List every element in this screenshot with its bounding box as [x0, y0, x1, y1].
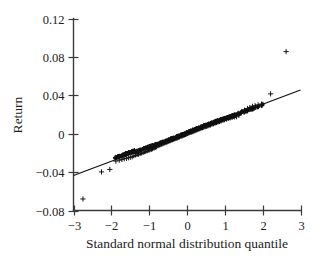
x-tick-label: −3 [68, 219, 81, 233]
x-tick-label: 0 [184, 219, 190, 233]
x-tick-label: 2 [260, 219, 266, 233]
x-tick-label: −2 [105, 219, 118, 233]
x-axis-title: Standard normal distribution quantile [86, 236, 288, 251]
x-tick-label: 1 [222, 219, 228, 233]
y-tick-label: 0.12 [43, 13, 65, 27]
chart-canvas: −0.08−0.0400.040.080.12 −3−2−10123 Stand… [0, 0, 320, 263]
y-tick-label: −0.08 [36, 205, 65, 219]
x-tick-label: 3 [298, 219, 304, 233]
y-tick-label: 0.04 [43, 89, 66, 103]
y-tick-label: 0 [58, 128, 64, 142]
chart-background [0, 0, 320, 263]
y-tick-label: −0.04 [36, 166, 66, 180]
y-tick-label: 0.08 [43, 51, 65, 65]
qq-plot-figure: −0.08−0.0400.040.080.12 −3−2−10123 Stand… [0, 0, 320, 263]
y-axis-title: Return [10, 96, 25, 133]
x-tick-label: −1 [143, 219, 156, 233]
